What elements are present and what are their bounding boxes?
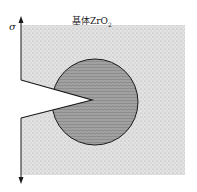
arrow-down-icon [19,177,24,184]
crack-diagram [0,0,197,192]
matrix-label-text: 基体ZrO [72,16,108,26]
zone-particle [52,59,138,145]
matrix-label: 基体ZrO2 [72,14,112,28]
stress-label: σ [9,21,16,32]
matrix-label-subscript: 2 [108,21,112,28]
arrow-up-icon [19,16,24,23]
